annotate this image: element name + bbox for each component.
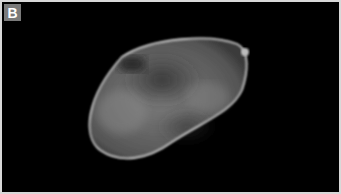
panel-label: B <box>4 4 21 21</box>
figure-panel: B <box>0 0 341 194</box>
specimen-image <box>2 2 339 192</box>
